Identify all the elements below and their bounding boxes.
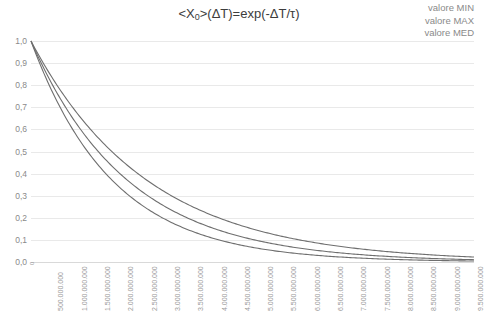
x-axis-tick-label: 7.000.000.000 — [360, 266, 367, 311]
x-axis-tick-label: 2.000.000.000 — [127, 266, 134, 311]
x-axis-tick-label: 8.500.000.000 — [430, 266, 437, 311]
x-axis-tick-label: 6.000.000.000 — [314, 266, 321, 311]
chart-title-subscript: 0 — [195, 12, 200, 22]
x-axis-tick-label: 5.500.000.000 — [290, 266, 297, 311]
y-axis-tick-label: 0,3 — [1, 192, 27, 200]
y-axis-tick-label: 0,4 — [1, 170, 27, 178]
legend-item-min[interactable]: valore MIN — [424, 2, 474, 15]
y-axis-tick-label: 1,0 — [1, 37, 27, 45]
x-axis-tick-label: 7.500.000.000 — [384, 266, 391, 311]
series-line-valore-med — [31, 41, 474, 260]
x-axis-tick-label: 4.500.000.000 — [244, 266, 251, 311]
chart-title-pre: <X — [178, 6, 194, 21]
y-axis-tick-label: 0,5 — [1, 148, 27, 156]
x-axis-tick-label: 2.500.000.000 — [151, 266, 158, 311]
chart-title: <X0>(ΔT)=exp(-ΔT/τ) — [0, 6, 478, 21]
chart-legend: valore MIN valore MAX valore MED — [424, 2, 474, 40]
x-axis-tick-label: 9.500.000.000 — [477, 266, 484, 311]
curve-layer — [31, 41, 474, 262]
y-axis-tick-label: 0,9 — [1, 59, 27, 67]
x-axis-tick-label: 3.500.000.000 — [197, 266, 204, 311]
x-axis-tick-label: 6.500.000.000 — [337, 266, 344, 311]
y-axis-tick-label: 0,8 — [1, 81, 27, 89]
x-axis-tick-label: 500.000.000 — [57, 272, 64, 311]
y-axis-tick-label: 0,6 — [1, 125, 27, 133]
x-axis-tick-label: 1.000.000.000 — [81, 266, 88, 311]
x-axis-origin-label: 0 — [29, 262, 36, 265]
legend-item-med[interactable]: valore MED — [424, 27, 474, 40]
plot-area — [31, 41, 474, 262]
y-axis-tick-label: 0,0 — [1, 258, 27, 266]
y-axis-tick-label: 0,1 — [1, 236, 27, 244]
x-axis-tick-label: 8.000.000.000 — [407, 266, 414, 311]
x-axis-tick-label: 9.000.000.000 — [454, 266, 461, 311]
gridline — [31, 262, 474, 263]
legend-item-max[interactable]: valore MAX — [424, 15, 474, 28]
series-line-valore-max — [31, 41, 474, 257]
x-axis-tick-label: 4.000.000.000 — [221, 266, 228, 311]
x-axis-tick-label: 5.000.000.000 — [267, 266, 274, 311]
y-axis-tick-label: 0,7 — [1, 103, 27, 111]
x-axis-tick-label: 1.500.000.000 — [104, 266, 111, 311]
y-axis-tick-label: 0,2 — [1, 214, 27, 222]
chart-title-post: >(ΔT)=exp(-ΔT/τ) — [200, 6, 300, 21]
x-axis-tick-label: 3.000.000.000 — [174, 266, 181, 311]
